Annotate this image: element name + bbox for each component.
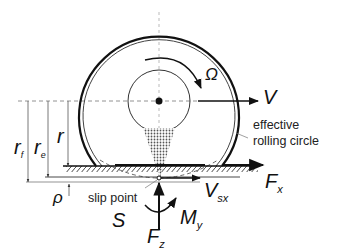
force-fx-label: Fx: [265, 171, 283, 191]
vsx-subscript: sx: [217, 192, 228, 204]
fx-symbol: F: [265, 170, 277, 192]
r-f-label: rf: [14, 137, 23, 157]
vsx-symbol: V: [204, 179, 217, 201]
omega-label: Ω: [205, 66, 218, 83]
moment-my-arrow: [145, 198, 176, 212]
my-symbol: M: [180, 206, 197, 228]
slip-velocity-vsx-label: Vsx: [204, 180, 228, 200]
moment-my-label: My: [180, 207, 202, 227]
rho-label: ρ: [53, 189, 63, 206]
r-e-subscript: e: [41, 150, 46, 160]
r-e-symbol: r: [34, 136, 41, 158]
r-e-label: re: [34, 137, 46, 157]
slip-point-leader: [145, 180, 157, 188]
velocity-v-label: V: [263, 87, 276, 107]
r-f-symbol: r: [14, 136, 21, 158]
slip-point-marker: [157, 176, 161, 180]
effective-rolling-circle-label-line2: rolling circle: [253, 135, 319, 148]
s-label: S: [112, 210, 125, 230]
fz-symbol: F: [147, 225, 159, 247]
wheel-slip-diagram: Ω V effective rolling circle rf re r ρ s…: [0, 0, 337, 250]
fz-subscript: z: [159, 238, 165, 250]
road-hatching: [66, 166, 258, 172]
my-subscript: y: [197, 219, 203, 231]
slip-point-label: slip point: [88, 192, 137, 205]
fx-subscript: x: [277, 183, 283, 195]
axle-center-dot: [156, 98, 163, 105]
effective-rolling-circle-label-line1: effective: [253, 119, 299, 132]
force-fz-label: Fz: [147, 226, 165, 246]
r-label: r: [57, 126, 64, 146]
r-f-subscript: f: [21, 150, 24, 160]
